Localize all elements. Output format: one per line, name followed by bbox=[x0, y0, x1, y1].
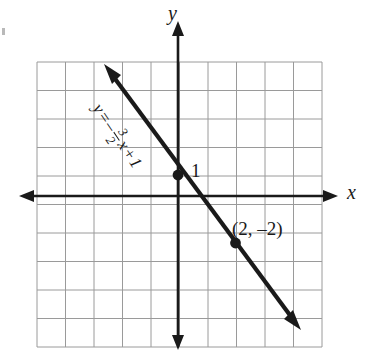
y-axis-bottom-arrowhead bbox=[172, 335, 184, 350]
y-intercept-label: 1 bbox=[191, 160, 201, 182]
y-axis-label: y bbox=[168, 2, 177, 25]
graph-figure: x y 1 (2, –2) y = – 3 2 x + 1 bbox=[0, 0, 371, 355]
x-axis-label: x bbox=[347, 181, 356, 204]
x-axis-right-arrowhead bbox=[323, 190, 338, 202]
point-y-intercept bbox=[173, 170, 184, 181]
x-axis-left-arrowhead bbox=[19, 190, 34, 202]
y-axis bbox=[172, 21, 184, 350]
coordinate-point-label: (2, –2) bbox=[232, 218, 283, 240]
coordinate-plane bbox=[0, 0, 371, 355]
